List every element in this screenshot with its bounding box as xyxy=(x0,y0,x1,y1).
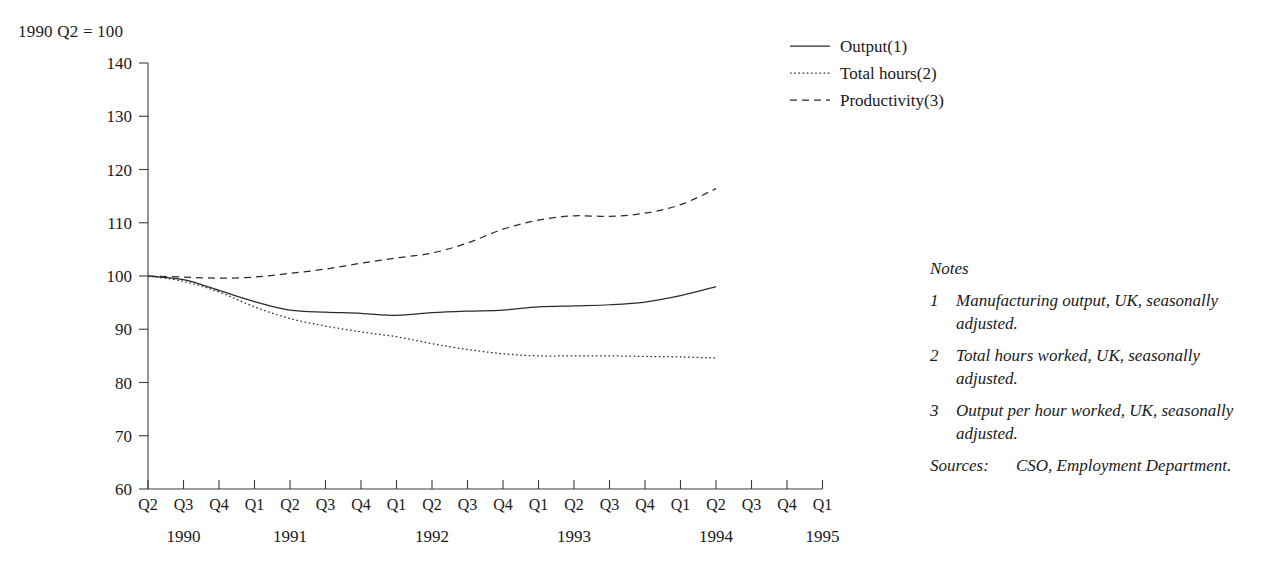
note-number: 3 xyxy=(930,400,956,445)
x-tick-label: Q2 xyxy=(138,496,158,513)
figure: 1990 Q2 = 100 60708090100110120130140 Q2… xyxy=(0,0,1276,568)
y-tick-label: 100 xyxy=(107,267,133,286)
legend-label: Total hours(2) xyxy=(840,64,937,83)
note-number: 1 xyxy=(930,290,956,335)
series-line-dotted xyxy=(148,276,716,358)
x-tick-label: Q4 xyxy=(777,496,797,513)
y-tick-label: 110 xyxy=(107,214,132,233)
x-tick-label: Q2 xyxy=(422,496,442,513)
series-layer xyxy=(148,189,716,358)
x-tick-label: Q4 xyxy=(635,496,655,513)
sources-text: CSO, Employment Department. xyxy=(1016,455,1260,477)
x-tick-label: Q3 xyxy=(458,496,478,513)
x-tick-label: Q2 xyxy=(564,496,584,513)
x-tick-label: Q1 xyxy=(671,496,691,513)
x-tick-label: Q4 xyxy=(351,496,371,513)
y-tick-label: 120 xyxy=(107,161,133,180)
y-tick-label: 70 xyxy=(115,427,132,446)
x-tick-label: Q2 xyxy=(280,496,300,513)
y-tick-label: 60 xyxy=(115,480,132,499)
x-tick-label: Q3 xyxy=(600,496,620,513)
notes-heading: Notes xyxy=(930,258,1260,280)
x-tick-label: Q2 xyxy=(706,496,726,513)
y-tick-label: 130 xyxy=(107,107,133,126)
x-tick-label: Q4 xyxy=(209,496,229,513)
index-base-note: 1990 Q2 = 100 xyxy=(18,22,123,42)
note-item: 2Total hours worked, UK, seasonally adju… xyxy=(930,345,1260,390)
chart-legend: Output(1)Total hours(2)Productivity(3) xyxy=(790,37,944,110)
x-tick-label: Q1 xyxy=(813,496,833,513)
x-year-label: 1990 xyxy=(167,527,201,546)
x-tick-label: Q3 xyxy=(316,496,336,513)
y-axis: 60708090100110120130140 xyxy=(107,54,149,499)
note-item: 1Manufacturing output, UK, seasonally ad… xyxy=(930,290,1260,335)
note-item: 3Output per hour worked, UK, seasonally … xyxy=(930,400,1260,445)
legend-label: Productivity(3) xyxy=(840,91,944,110)
x-axis: Q2Q3Q4Q1Q2Q3Q4Q1Q2Q3Q4Q1Q2Q3Q4Q1Q2Q3Q4Q1… xyxy=(138,480,839,546)
note-text: Total hours worked, UK, seasonally adjus… xyxy=(956,345,1260,390)
y-tick-label: 140 xyxy=(107,54,133,73)
x-tick-label: Q1 xyxy=(245,496,265,513)
legend-label: Output(1) xyxy=(840,37,907,56)
note-number: 2 xyxy=(930,345,956,390)
x-tick-label: Q3 xyxy=(742,496,762,513)
series-line-solid xyxy=(148,276,716,315)
x-tick-label: Q4 xyxy=(493,496,513,513)
x-tick-label: Q3 xyxy=(174,496,194,513)
note-text: Manufacturing output, UK, seasonally adj… xyxy=(956,290,1260,335)
x-year-label: 1995 xyxy=(806,527,840,546)
series-line-dashed xyxy=(148,189,716,278)
y-tick-label: 90 xyxy=(115,320,132,339)
notes-panel: Notes 1Manufacturing output, UK, seasona… xyxy=(930,258,1260,478)
notes-list: 1Manufacturing output, UK, seasonally ad… xyxy=(930,290,1260,445)
x-tick-label: Q1 xyxy=(387,496,407,513)
x-year-label: 1991 xyxy=(273,527,307,546)
x-year-label: 1993 xyxy=(557,527,591,546)
sources-label: Sources: xyxy=(930,455,1016,477)
note-text: Output per hour worked, UK, seasonally a… xyxy=(956,400,1260,445)
x-tick-label: Q1 xyxy=(529,496,549,513)
y-tick-label: 80 xyxy=(115,374,132,393)
x-year-label: 1992 xyxy=(415,527,449,546)
x-year-label: 1994 xyxy=(699,527,734,546)
sources-row: Sources: CSO, Employment Department. xyxy=(930,455,1260,477)
